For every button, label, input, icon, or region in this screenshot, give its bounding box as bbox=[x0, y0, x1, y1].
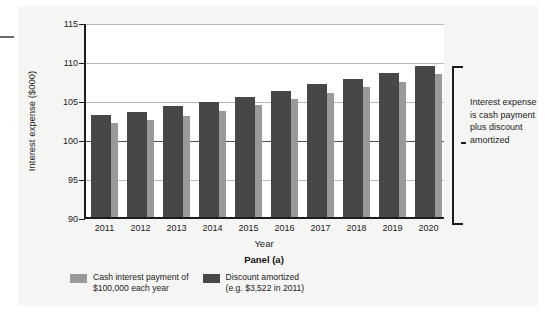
range-bracket-pointer bbox=[461, 142, 466, 144]
bar-group-2011 bbox=[91, 22, 118, 217]
light-gray-swatch bbox=[70, 274, 87, 283]
dark-gray-swatch bbox=[203, 274, 220, 283]
y-tick-label-110: 110 bbox=[64, 59, 78, 68]
range-bracket bbox=[452, 66, 463, 225]
x-tick-label-2013: 2013 bbox=[166, 223, 186, 233]
bracket-annotation: Interest expense is cash payment plus di… bbox=[470, 96, 542, 146]
bar-total-interest-expense-2012 bbox=[127, 112, 147, 217]
legend-item-discount-amortized: Discount amortized (e.g. $3,522 in 2011) bbox=[203, 272, 305, 294]
bar-group-2018 bbox=[343, 22, 370, 217]
bar-total-interest-expense-2017 bbox=[307, 84, 327, 217]
bar-total-interest-expense-2015 bbox=[235, 97, 255, 217]
x-tick-label-2017: 2017 bbox=[310, 223, 330, 233]
x-tick-label-2015: 2015 bbox=[238, 223, 258, 233]
y-axis-title: Interest expense ($000) bbox=[26, 71, 37, 171]
y-tick-label-90: 90 bbox=[68, 215, 78, 224]
x-tick-label-2018: 2018 bbox=[346, 223, 366, 233]
bar-total-interest-expense-2020 bbox=[415, 66, 435, 217]
panel-title: Panel (a) bbox=[244, 254, 284, 265]
figure-container: Interest expense ($000) 9095100105110115… bbox=[0, 0, 545, 314]
chart-legend: Cash interest payment of $100,000 each y… bbox=[70, 272, 304, 294]
x-tick-label-2016: 2016 bbox=[274, 223, 294, 233]
legend-item-cash-payment: Cash interest payment of $100,000 each y… bbox=[70, 272, 189, 294]
y-tick-label-115: 115 bbox=[64, 20, 78, 29]
y-tick-label-95: 95 bbox=[68, 176, 78, 185]
y-tick-label-105: 105 bbox=[63, 98, 78, 107]
legend-label: Discount amortized (e.g. $3,522 in 2011) bbox=[226, 272, 305, 294]
bar-total-interest-expense-2014 bbox=[199, 102, 219, 217]
bar-total-interest-expense-2018 bbox=[343, 79, 363, 217]
y-tick-90 bbox=[79, 219, 85, 220]
bar-group-2015 bbox=[235, 22, 262, 217]
bar-total-interest-expense-2019 bbox=[379, 73, 399, 217]
bar-group-2020 bbox=[415, 22, 442, 217]
y-tick-label-100: 100 bbox=[63, 137, 78, 146]
bar-total-interest-expense-2016 bbox=[271, 91, 291, 217]
bar-group-2019 bbox=[379, 22, 406, 217]
bar-total-interest-expense-2013 bbox=[163, 106, 183, 217]
plot-area: 9095100105110115 20112012201320142015201… bbox=[84, 24, 444, 219]
x-tick-label-2019: 2019 bbox=[382, 223, 402, 233]
bar-group-2017 bbox=[307, 22, 334, 217]
bar-group-2012 bbox=[127, 22, 154, 217]
x-axis-title: Year bbox=[254, 238, 273, 249]
x-tick-label-2011: 2011 bbox=[95, 223, 114, 233]
x-tick-label-2012: 2012 bbox=[130, 223, 150, 233]
left-edge-dash-mark bbox=[0, 36, 14, 38]
bar-group-2013 bbox=[163, 22, 190, 217]
x-tick-label-2014: 2014 bbox=[202, 223, 222, 233]
bars-layer bbox=[84, 24, 444, 219]
bar-group-2016 bbox=[271, 22, 298, 217]
bar-group-2014 bbox=[199, 22, 226, 217]
bar-total-interest-expense-2011 bbox=[91, 115, 111, 217]
x-tick-label-2020: 2020 bbox=[418, 223, 438, 233]
legend-label: Cash interest payment of $100,000 each y… bbox=[93, 272, 189, 294]
